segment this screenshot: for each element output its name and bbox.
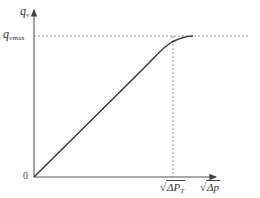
- x-axis-label: √Δp: [200, 180, 220, 193]
- qvmax-subscript: vmax: [9, 34, 25, 42]
- x-axis-symbol: Δp: [206, 180, 220, 193]
- y-axis-subscript: v: [26, 11, 30, 19]
- pt-symbol: ΔP: [167, 181, 180, 193]
- pt-label: √ΔPT: [160, 180, 185, 195]
- diagram-canvas: [0, 0, 260, 198]
- flow-curve: [34, 36, 193, 177]
- origin-label: 0: [23, 170, 28, 181]
- y-axis-label: qv: [20, 5, 30, 19]
- qvmax-label: qvmax: [3, 28, 25, 42]
- pt-subscript: T: [180, 187, 184, 195]
